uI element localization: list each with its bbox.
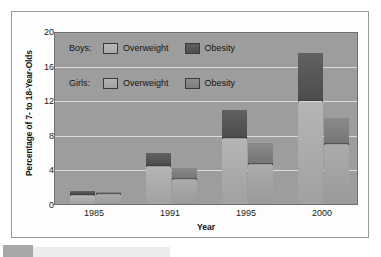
bar-boys-1995[interactable] <box>222 111 247 204</box>
bar-segment-boys-obesity <box>298 53 323 101</box>
bar-boys-1985[interactable] <box>70 192 95 204</box>
bar-girls-2000[interactable] <box>324 119 349 204</box>
legend-row-girls: Girls: Overweight Obesity <box>69 74 319 92</box>
bar-segment-boys-overweight <box>70 196 95 204</box>
bar-segment-boys-overweight <box>146 167 171 204</box>
y-tick-label: 8 <box>32 131 54 141</box>
bottom-light-bar <box>33 247 170 257</box>
legend-label: Overweight <box>123 43 169 53</box>
plot-area: Boys: Overweight Obesity Girls: Overweig… <box>54 32 358 205</box>
figure-card: Percentage of 7- to 18-Year-Olds 20 16 1… <box>11 11 369 238</box>
legend-entry-girls-obesity[interactable]: Obesity <box>185 78 236 89</box>
girls-obesity-swatch-icon <box>185 78 200 89</box>
bar-segment-boys-obesity <box>70 191 95 195</box>
bar-segment-girls-obesity <box>324 118 349 144</box>
bottom-gray-block <box>3 245 33 257</box>
bar-girls-1985[interactable] <box>96 193 121 204</box>
x-axis-tick-labels: 1985199119952000 <box>54 208 358 222</box>
chart-legend: Boys: Overweight Obesity Girls: Overweig… <box>69 39 319 109</box>
x-axis-title: Year <box>54 222 358 232</box>
bar-segment-girls-obesity <box>96 192 121 195</box>
bar-boys-2000[interactable] <box>298 54 323 204</box>
bar-segment-girls-obesity <box>248 143 273 164</box>
boys-obesity-swatch-icon <box>185 43 200 54</box>
bar-segment-girls-obesity <box>172 168 197 179</box>
bar-segment-boys-obesity <box>146 153 171 166</box>
legend-label: Obesity <box>205 43 236 53</box>
x-tick-label: 1995 <box>236 208 256 218</box>
legend-row-boys: Boys: Overweight Obesity <box>69 39 319 57</box>
y-tick-label: 20 <box>32 27 54 37</box>
y-tick-label: 0 <box>32 200 54 210</box>
legend-entry-boys-overweight[interactable]: Overweight <box>103 43 169 54</box>
legend-group-label-boys: Boys: <box>69 43 103 53</box>
y-axis-tick-labels: 20 16 12 8 4 0 <box>30 32 54 205</box>
bar-segment-boys-overweight <box>222 139 247 204</box>
bottom-ui-strip <box>0 245 381 257</box>
bar-boys-1991[interactable] <box>146 154 171 204</box>
x-tick-label: 1985 <box>84 208 104 218</box>
bar-segment-girls-overweight <box>248 165 273 204</box>
legend-entry-girls-overweight[interactable]: Overweight <box>103 78 169 89</box>
bar-segment-girls-overweight <box>172 180 197 204</box>
bar-girls-1991[interactable] <box>172 169 197 204</box>
girls-overweight-swatch-icon <box>103 78 118 89</box>
bar-segment-girls-overweight <box>324 145 349 204</box>
bar-segment-boys-obesity <box>222 110 247 138</box>
bar-segment-girls-overweight <box>96 195 121 204</box>
boys-overweight-swatch-icon <box>103 43 118 54</box>
bar-segment-boys-overweight <box>298 102 323 204</box>
bar-girls-1995[interactable] <box>248 144 273 204</box>
legend-label: Obesity <box>205 78 236 88</box>
x-tick-label: 2000 <box>312 208 332 218</box>
x-tick-label: 1991 <box>160 208 180 218</box>
legend-group-label-girls: Girls: <box>69 78 103 88</box>
legend-entry-boys-obesity[interactable]: Obesity <box>185 43 236 54</box>
y-tick-label: 4 <box>32 165 54 175</box>
y-tick-label: 16 <box>32 62 54 72</box>
y-tick-label: 12 <box>32 96 54 106</box>
legend-label: Overweight <box>123 78 169 88</box>
